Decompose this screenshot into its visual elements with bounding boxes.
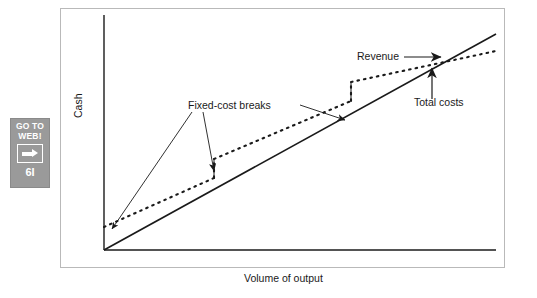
- break-even-chart: [60, 8, 505, 268]
- y-axis-label: Cash: [72, 93, 84, 118]
- arrow-head: [32, 149, 38, 157]
- x-axis-label: Volume of output: [244, 272, 323, 284]
- right-arrow-glyph: [22, 149, 38, 158]
- right-arrow-icon: [17, 144, 43, 163]
- total-costs-label: Total costs: [414, 96, 464, 108]
- go-to-web-badge[interactable]: GO TO WEB! 6I: [10, 118, 50, 188]
- screenshot-canvas: GO TO WEB! 6I: [0, 0, 537, 298]
- badge-line-2: WEB!: [11, 132, 49, 142]
- chart-break-markers: [60, 8, 505, 268]
- fixed-cost-breaks-label: Fixed-cost breaks: [188, 99, 271, 111]
- revenue-label: Revenue: [357, 50, 399, 62]
- badge-reference-number: 6I: [25, 166, 34, 178]
